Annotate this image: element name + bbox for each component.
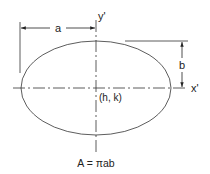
ellipse-diagram: a y' b x' (h, k) A = πab xyxy=(0,0,210,174)
label-center: (h, k) xyxy=(99,92,122,103)
label-a: a xyxy=(55,22,62,34)
label-area-formula: A = πab xyxy=(77,157,114,169)
label-x-axis: x' xyxy=(191,82,199,94)
label-y-axis: y' xyxy=(98,10,106,22)
label-b: b xyxy=(179,59,185,71)
